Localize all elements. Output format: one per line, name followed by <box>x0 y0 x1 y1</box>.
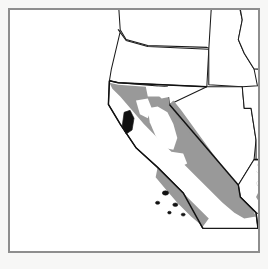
map-canvas <box>10 10 258 251</box>
map-frame <box>8 8 260 253</box>
distribution-map-figure <box>0 0 268 269</box>
